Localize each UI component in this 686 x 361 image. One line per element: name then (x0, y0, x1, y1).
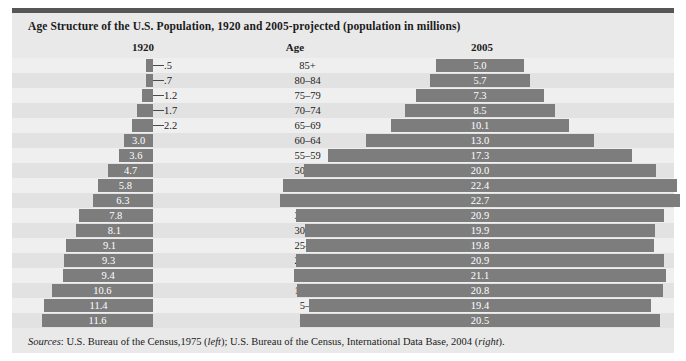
sources-body: : U.S. Bureau of the Census,1975 (left);… (61, 336, 505, 347)
pyramid-row: 9.320–2420.9 (12, 253, 674, 268)
leader-line (153, 125, 164, 126)
bar-value-2005: 19.8 (306, 239, 654, 252)
bar-value-1920: 4.7 (108, 164, 153, 177)
bar-value-2005: 22.4 (283, 179, 677, 192)
pyramid-row: 9.415–1921.1 (12, 268, 674, 283)
column-header-2005: 2005 (437, 41, 527, 53)
pyramid-row: 4.750–5420.0 (12, 163, 674, 178)
bar-value-2005: 19.4 (309, 299, 650, 312)
pyramid-row: 2.265–6910.1 (12, 118, 674, 133)
bar-value-2005: 8.5 (405, 104, 555, 117)
bar-value-2005: 20.5 (300, 314, 661, 327)
bar-value-1920: 11.4 (44, 299, 153, 312)
bar-value-1920: .7 (164, 74, 188, 87)
bar-value-2005: 5.7 (430, 74, 530, 87)
bar-value-1920: 11.6 (42, 314, 153, 327)
age-group-label: 60–64 (250, 134, 365, 147)
column-header-age: Age (250, 41, 340, 53)
sources-note: Sources: U.S. Bureau of the Census,1975 … (28, 336, 505, 347)
leader-line (153, 80, 164, 81)
bar-value-2005: 5.0 (436, 59, 524, 72)
sources-label: Sources (28, 336, 61, 347)
bar-value-2005: 20.8 (297, 284, 663, 297)
pyramid-row: 5.845–4922.4 (12, 178, 674, 193)
pyramid-row: 9.125–2919.8 (12, 238, 674, 253)
pyramid-row: 3.655–5917.3 (12, 148, 674, 163)
leader-line (153, 95, 164, 96)
pyramid-row: .585+5.0 (12, 58, 674, 73)
bar-value-2005: 13.0 (366, 134, 595, 147)
top-rule-divider (12, 8, 674, 13)
age-group-label: 75–79 (250, 89, 365, 102)
bar-value-1920: 5.8 (98, 179, 153, 192)
bar-value-1920: 6.3 (93, 194, 153, 207)
bar-value-2005: 19.9 (305, 224, 655, 237)
bar-value-1920: 1.7 (164, 104, 188, 117)
bar-value-1920: 2.2 (164, 119, 188, 132)
bar-1920 (146, 74, 153, 87)
bar-1920 (142, 89, 153, 102)
bar-value-1920: 9.1 (66, 239, 153, 252)
bar-value-2005: 22.7 (280, 194, 680, 207)
bar-value-2005: 20.9 (296, 209, 664, 222)
pyramid-row: 7.835–3920.9 (12, 208, 674, 223)
bar-value-2005: 17.3 (328, 149, 632, 162)
bar-value-1920: 7.8 (79, 209, 153, 222)
bar-1920 (132, 119, 153, 132)
pyramid-row: 11.45–919.4 (12, 298, 674, 313)
bar-value-1920: 9.3 (64, 254, 153, 267)
age-group-label: 85+ (250, 59, 365, 72)
pyramid-row: 8.130–3419.9 (12, 223, 674, 238)
page-title: Age Structure of the U.S. Population, 19… (28, 20, 460, 32)
bar-value-2005: 20.9 (296, 254, 664, 267)
bar-value-1920: 3.0 (124, 134, 153, 147)
bar-value-2005: 20.0 (304, 164, 656, 177)
age-group-label: 70–74 (250, 104, 365, 117)
bar-value-1920: .5 (164, 59, 188, 72)
bar-value-2005: 7.3 (416, 89, 544, 102)
leader-line (153, 65, 164, 66)
bar-1920 (146, 59, 153, 72)
bar-value-1920: 9.4 (63, 269, 153, 282)
pyramid-row: 10.610–1420.8 (12, 283, 674, 298)
pyramid-row: 11.60–420.5 (12, 313, 674, 328)
pyramid-row: 1.770–748.5 (12, 103, 674, 118)
bar-value-1920: 10.6 (52, 284, 153, 297)
age-group-label: 65–69 (250, 119, 365, 132)
bar-value-1920: 8.1 (76, 224, 153, 237)
pyramid-rows: .585+5.0.780–845.71.275–797.31.770–748.5… (12, 58, 674, 328)
pyramid-row: 1.275–797.3 (12, 88, 674, 103)
column-header-1920: 1920 (98, 41, 188, 53)
age-group-label: 80–84 (250, 74, 365, 87)
pyramid-row: .780–845.7 (12, 73, 674, 88)
bar-value-1920: 1.2 (164, 89, 188, 102)
leader-line (153, 110, 164, 111)
population-pyramid-figure: Age Structure of the U.S. Population, 19… (0, 0, 686, 361)
bar-value-1920: 3.6 (119, 149, 153, 162)
bar-value-2005: 21.1 (294, 269, 665, 282)
bar-1920 (137, 104, 153, 117)
pyramid-row: 6.340–4422.7 (12, 193, 674, 208)
bar-value-2005: 10.1 (391, 119, 569, 132)
pyramid-row: 3.060–6413.0 (12, 133, 674, 148)
